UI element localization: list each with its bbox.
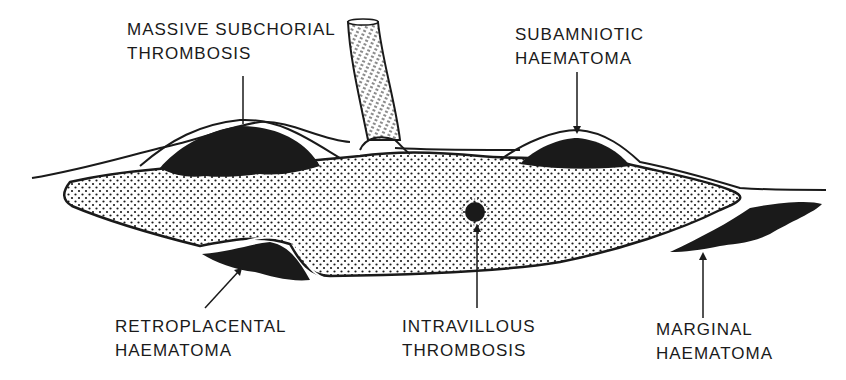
pointer-retroplacental — [205, 272, 238, 308]
villous-tissue — [64, 152, 740, 276]
chorionic-plate-right — [395, 148, 520, 150]
label-subamniotic-haematoma: SUBAMNIOTIC HAEMATOMA — [515, 23, 644, 71]
label-retroplacental-haematoma: RETROPLACENTAL HAEMATOMA — [115, 315, 286, 363]
label-massive-subchorial-thrombosis: MASSIVE SUBCHORIAL THROMBOSIS — [127, 18, 336, 66]
placenta-diagram: MASSIVE SUBCHORIAL THROMBOSIS SUBAMNIOTI… — [0, 0, 846, 380]
intravillous-thrombus — [465, 202, 485, 222]
umbilical-cord — [348, 22, 400, 140]
label-intravillous-thrombosis: INTRAVILLOUS THROMBOSIS — [402, 315, 536, 363]
label-marginal-haematoma: MARGINAL HAEMATOMA — [656, 318, 773, 366]
